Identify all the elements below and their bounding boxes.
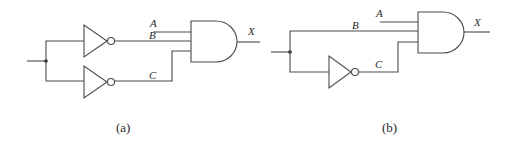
label-b: B — [352, 19, 359, 31]
label-x: X — [473, 16, 482, 28]
and-gate-icon — [191, 21, 237, 62]
split-wires — [46, 41, 84, 81]
label-c: C — [149, 69, 157, 81]
wire-c — [359, 42, 419, 72]
inverter-bubble — [108, 38, 115, 45]
inverter-icon — [329, 56, 351, 88]
caption-b: (b) — [382, 120, 397, 135]
wire-b — [290, 31, 418, 72]
inverter-bottom-icon — [84, 66, 107, 98]
panel-b: A B C X (b) — [271, 7, 490, 135]
inverter-bubble — [352, 69, 359, 76]
label-a: A — [149, 17, 157, 29]
circuit-diagram: A B C X (a) A B C X (b) — [0, 0, 517, 152]
label-a: A — [375, 7, 383, 19]
inverter-bubble — [108, 79, 115, 86]
inverter-top-icon — [84, 25, 107, 57]
label-c: C — [375, 58, 383, 70]
caption-a: (a) — [116, 120, 130, 135]
and-gate-icon — [418, 12, 464, 53]
panel-a: A B C X (a) — [27, 17, 260, 135]
label-b: B — [149, 29, 156, 41]
label-x: X — [247, 25, 256, 37]
